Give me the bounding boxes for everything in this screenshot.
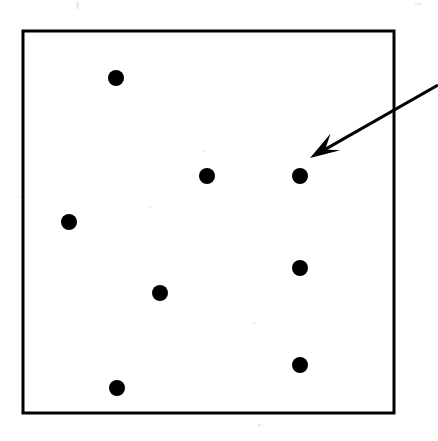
scatter-point [199, 168, 215, 184]
scan-speck [253, 322, 255, 324]
scatter-figure [0, 0, 438, 441]
scatter-point [292, 260, 308, 276]
scatter-point [109, 380, 125, 396]
scatter-point [152, 285, 168, 301]
scatter-point [108, 70, 124, 86]
scan-speck [415, 3, 422, 5]
scan-speck [149, 206, 151, 208]
scan-speck [18, 196, 20, 198]
scatter-point [292, 357, 308, 373]
scan-speck [203, 150, 205, 152]
scatter-point [61, 214, 77, 230]
scan-speck [258, 424, 261, 427]
figure-canvas [0, 0, 438, 441]
scan-speck [76, 2, 79, 9]
scatter-point [292, 168, 308, 184]
